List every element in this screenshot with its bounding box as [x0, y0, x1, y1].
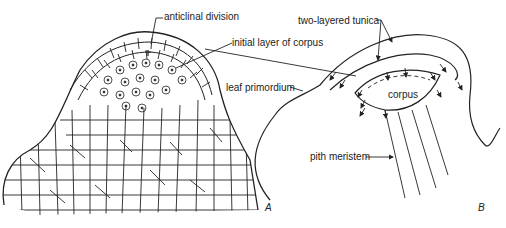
- leader-initial-layer-a: [176, 43, 232, 68]
- panel-b-shoot-apex-schematic: [255, 35, 500, 200]
- corpus-cells: [100, 59, 186, 112]
- label-leaf-primordium: leaf primordium: [226, 82, 295, 94]
- panel-label-a: A: [265, 202, 272, 213]
- leader-anticlinal-division: [151, 18, 163, 44]
- label-anticlinal-division: anticlinal division: [164, 11, 239, 23]
- leader-initial-layer-b: [205, 49, 356, 76]
- label-initial-layer-of-corpus: initial layer of corpus: [232, 37, 323, 49]
- panel-a-shoot-apex: [0, 32, 260, 215]
- diagram-drawing: [0, 0, 506, 228]
- panel-label-b: B: [478, 202, 485, 213]
- shoot-apex-diagram: anticlinal division initial layer of cor…: [0, 0, 506, 228]
- label-pith-meristem: pith meristem: [310, 151, 370, 163]
- label-corpus: corpus: [388, 89, 418, 101]
- label-two-layered-tunica: two-layered tunica: [298, 15, 379, 27]
